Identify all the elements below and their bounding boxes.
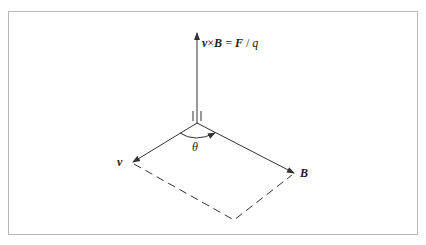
v-vector [133,123,197,162]
b-label: B [300,166,308,181]
angle-arc [180,133,215,138]
theta-label: θ [192,140,198,155]
b-vector [197,123,294,173]
force-label: v×B = F / q [202,36,258,51]
v-label: v [117,155,122,170]
parallelogram-dashed [134,164,292,220]
